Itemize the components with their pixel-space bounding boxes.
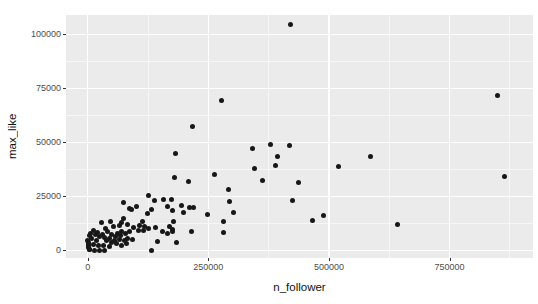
data-point [186, 179, 191, 184]
data-point [170, 208, 175, 213]
data-point [130, 237, 135, 242]
x-tick-label: 750000 [420, 262, 480, 273]
y-tick-label: 100000 [0, 29, 61, 40]
plot-panel [66, 15, 533, 258]
data-point [99, 220, 104, 225]
data-point [368, 154, 373, 159]
x-tick-label: 500000 [299, 262, 359, 273]
data-point [310, 218, 315, 223]
y-tick-mark [63, 250, 66, 251]
data-point [124, 241, 129, 246]
data-point [155, 239, 160, 244]
data-point [174, 240, 179, 245]
y-tick-label: 25000 [0, 191, 61, 202]
minor-gridline-y [66, 115, 533, 116]
major-gridline-y [66, 196, 533, 197]
data-point [275, 154, 280, 159]
data-point [502, 174, 507, 179]
data-point [136, 228, 141, 233]
data-point [134, 204, 139, 209]
data-point [296, 180, 301, 185]
major-gridline-y [66, 34, 533, 35]
major-gridline-x [328, 15, 329, 258]
data-point [287, 143, 292, 148]
data-point [273, 163, 278, 168]
minor-gridline-x [148, 15, 149, 258]
data-point [146, 226, 151, 231]
y-tick-label: 0 [0, 245, 61, 256]
data-point [221, 230, 226, 235]
y-tick-label: 50000 [0, 137, 61, 148]
data-point [129, 207, 134, 212]
data-point [495, 93, 500, 98]
data-point [111, 224, 116, 229]
y-tick-mark [63, 34, 66, 35]
data-point [250, 146, 255, 151]
y-tick-mark [63, 196, 66, 197]
data-point [161, 197, 166, 202]
data-point [181, 210, 186, 215]
data-point [268, 142, 273, 147]
x-tick-label: 0 [58, 262, 118, 273]
data-point [219, 98, 224, 103]
data-point [252, 166, 257, 171]
data-point [146, 193, 151, 198]
data-point [107, 244, 112, 249]
data-point [125, 222, 130, 227]
minor-gridline-x [389, 15, 390, 258]
data-point [321, 213, 326, 218]
minor-gridline-y [66, 61, 533, 62]
data-point [221, 219, 226, 224]
minor-gridline-x [509, 15, 510, 258]
data-point [288, 22, 293, 27]
data-point [121, 200, 126, 205]
scatter-plot-figure: n_follower max_like 02500005000007500000… [0, 0, 538, 304]
major-gridline-y [66, 88, 533, 89]
data-point [172, 175, 177, 180]
major-gridline-y [66, 142, 533, 143]
data-point [336, 164, 341, 169]
data-point [102, 248, 107, 253]
y-tick-mark [63, 88, 66, 89]
minor-gridline-x [268, 15, 269, 258]
data-point [117, 223, 122, 228]
minor-gridline-y [66, 223, 533, 224]
x-tick-mark [208, 258, 209, 261]
data-point [212, 172, 217, 177]
y-tick-label: 75000 [0, 83, 61, 94]
data-point [227, 199, 232, 204]
data-point [231, 210, 236, 215]
x-tick-mark [88, 258, 89, 261]
major-gridline-y [66, 250, 533, 251]
data-point [205, 212, 210, 217]
data-point [152, 198, 157, 203]
data-point [191, 205, 196, 210]
major-gridline-x [208, 15, 209, 258]
data-point [260, 178, 265, 183]
data-point [173, 151, 178, 156]
data-point [153, 225, 158, 230]
data-point [290, 198, 295, 203]
data-point [190, 124, 195, 129]
data-point [189, 229, 194, 234]
minor-gridline-y [66, 169, 533, 170]
x-tick-mark [450, 258, 451, 261]
data-point [226, 187, 231, 192]
data-point [145, 211, 150, 216]
x-tick-mark [329, 258, 330, 261]
major-gridline-x [87, 15, 88, 258]
major-gridline-x [449, 15, 450, 258]
data-point [395, 222, 400, 227]
x-tick-label: 250000 [178, 262, 238, 273]
x-axis-title: n_follower [66, 281, 533, 293]
data-point [179, 203, 184, 208]
data-point [169, 197, 174, 202]
y-tick-mark [63, 142, 66, 143]
data-point [149, 248, 154, 253]
